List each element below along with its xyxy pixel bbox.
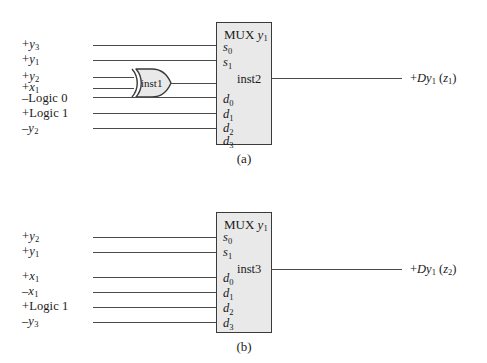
input-label-a-5: –Logic 0	[22, 92, 68, 105]
wire-b-s1	[93, 252, 217, 253]
input-label-b-3: +x1	[22, 270, 39, 284]
figure-panel-a: +y3 +y1 +y2 +x1 –Logic 0 +Logic 1 –y2	[0, 0, 487, 182]
mux-port-d1-a: d1	[223, 108, 234, 122]
mux-instance-label-a: inst2	[237, 73, 261, 86]
mux-port-d0-b: d0	[223, 272, 234, 286]
output-label-a: +Dy1 (z1)	[410, 72, 456, 86]
wire-a-s1	[93, 60, 217, 61]
mux-port-d2-b: d2	[223, 302, 234, 316]
input-label-a-2: +y1	[22, 53, 39, 67]
input-label-b-6: –y3	[22, 315, 39, 329]
caption-a: (a)	[216, 152, 272, 165]
mux-port-d3-a: d3	[223, 135, 234, 149]
wire-a-d3	[93, 128, 217, 129]
panel-b-stage: +y2 +y1 +x1 –x1 +Logic 1 –y3 MUX y1 s0	[0, 180, 487, 363]
output-label-b: +Dy1 (z2)	[410, 263, 456, 277]
mux-port-s1-b: s1	[223, 246, 232, 260]
input-label-a-1: +y3	[22, 38, 39, 52]
xor-gate-label: inst1	[141, 78, 162, 89]
wire-b-output	[271, 269, 402, 270]
wire-b-d3	[93, 322, 217, 323]
wire-b-d2	[93, 307, 217, 308]
mux-block-inst3: MUX y1 s0 s1 inst3 d0 d1 d2 d3	[216, 212, 272, 333]
wire-b-d1	[93, 292, 217, 293]
mux-port-d1-b: d1	[223, 287, 234, 301]
mux-instance-label-b: inst3	[237, 263, 261, 276]
mux-port-s1-a: s1	[223, 56, 232, 70]
mux-port-s0-a: s0	[223, 41, 232, 55]
mux-port-s0-b: s0	[223, 231, 232, 245]
input-label-b-2: +y1	[22, 245, 39, 259]
input-label-b-5: +Logic 1	[22, 300, 68, 313]
panel-a-stage: +y3 +y1 +y2 +x1 –Logic 0 +Logic 1 –y2	[0, 0, 487, 183]
mux-port-d3-b: d3	[223, 317, 234, 331]
input-label-a-6: +Logic 1	[22, 107, 68, 120]
wire-b-s0	[93, 237, 217, 238]
input-label-b-1: +y2	[22, 230, 39, 244]
figure-panel-b: +y2 +y1 +x1 –x1 +Logic 1 –y3 MUX y1 s0	[0, 180, 487, 363]
mux-port-d0-a: d0	[223, 93, 234, 107]
caption-b: (b)	[216, 340, 272, 353]
input-label-a-7: –y2	[22, 122, 39, 136]
wire-a-s0	[93, 45, 217, 46]
wire-a-d1	[93, 97, 217, 98]
input-label-b-4: –x1	[22, 285, 39, 299]
wire-a-xor-out-d0	[170, 83, 217, 84]
wire-a-output	[271, 78, 402, 79]
wire-a-d2	[93, 113, 217, 114]
wire-b-d0	[93, 277, 217, 278]
xor-gate-inst1: inst1	[126, 68, 172, 98]
mux-block-inst2: MUX y1 s0 s1 inst2 d0 d1 d2 d3	[216, 22, 272, 145]
